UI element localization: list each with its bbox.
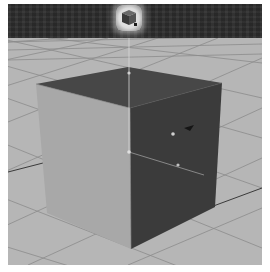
tool-shelf: [8, 4, 262, 38]
polygon-cube-icon: [120, 8, 138, 28]
create-polygon-cube-button[interactable]: [116, 5, 142, 31]
manipulator-center[interactable]: [127, 150, 131, 154]
selection-point: [171, 132, 175, 136]
3d-viewport[interactable]: [8, 4, 262, 265]
pivot-point[interactable]: [127, 71, 130, 74]
x-axis-marker: [176, 163, 179, 166]
scene-canvas[interactable]: [8, 38, 262, 265]
